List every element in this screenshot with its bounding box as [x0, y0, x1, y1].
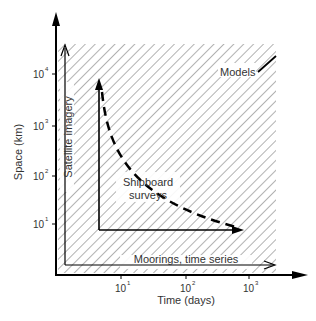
x-axis-label: Time (days) [157, 294, 215, 306]
moorings-label: Moorings, time series [134, 253, 239, 265]
shipboard-label-1: Shipboard [123, 176, 173, 188]
svg-text:10: 10 [33, 121, 45, 132]
svg-text:4: 4 [45, 66, 49, 72]
shipboard-label-2: surveys [129, 189, 167, 201]
satellite-label: Satellite imagery [62, 96, 74, 178]
models-label: Models [220, 66, 256, 78]
svg-text:2: 2 [192, 280, 196, 286]
svg-text:1: 1 [45, 216, 49, 222]
x-tick-labels: 10 1 10 2 10 3 [115, 280, 259, 294]
svg-text:3: 3 [45, 118, 49, 124]
y-tick-labels: 10 4 10 3 10 2 10 1 [33, 66, 49, 230]
svg-text:10: 10 [33, 171, 45, 182]
y-axis-label: Space (km) [12, 124, 24, 180]
svg-text:10: 10 [33, 219, 45, 230]
models-hatched-region [58, 44, 276, 273]
svg-text:3: 3 [255, 280, 259, 286]
svg-text:1: 1 [127, 280, 131, 286]
svg-text:10: 10 [180, 283, 192, 294]
svg-text:10: 10 [243, 283, 255, 294]
space-time-diagram: Models Shipboard surveys Moorings, time … [0, 0, 316, 321]
svg-text:10: 10 [115, 283, 127, 294]
svg-text:10: 10 [33, 69, 45, 80]
svg-text:2: 2 [45, 168, 49, 174]
